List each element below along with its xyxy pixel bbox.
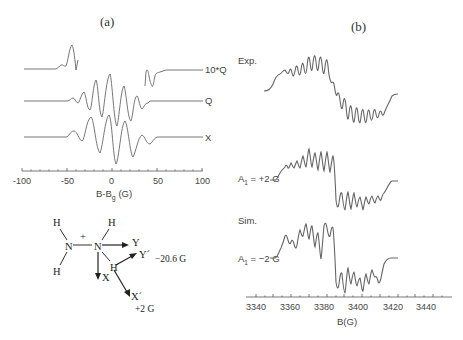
tick-b-4: 3420 [383,302,403,312]
coupling-x-prime: +2 G [135,304,154,314]
panel-b-label: (b) [351,19,366,34]
atom-n2: N [94,241,102,252]
atom-h3: H [108,217,116,228]
atom-h2: H [53,266,61,277]
tick-a-1: -50 [61,176,74,186]
tick-a-4: 100 [195,176,210,186]
axis-y-label: Y [132,237,140,248]
trace-label-q: Q [205,95,212,106]
atom-h1: H [53,217,61,228]
x-axis-b [246,294,452,297]
arrow-y-icon [122,242,129,248]
x-axis-title-a: B-Bg (G) [96,188,132,202]
x-axis-title-b: B(G) [337,316,357,327]
tick-b-1: 3360 [280,302,300,312]
atom-n1: N [65,241,73,252]
label-a1-minus: A1 = −2 G [238,253,280,266]
trace-label-10xq: 10*Q [205,64,227,75]
tick-b-5: 3440 [416,302,436,312]
x-axis-a [22,168,203,171]
trace-label-x: X [205,132,212,143]
tick-a-3: 50 [153,176,163,186]
trace-10xq [24,45,203,87]
trace-sim-minus [270,223,398,293]
panel-a-label: (a) [100,14,114,29]
trace-sim-plus [270,149,398,210]
arrow-x-prime-icon [124,289,130,297]
trace-exp [264,56,398,123]
figure: (a) 10*Q Q X -100 -50 0 50 100 [0,0,463,340]
tick-b-3: 3400 [348,302,368,312]
label-a1-plus: A1 = +2 G [238,173,280,186]
trace-x [24,115,203,164]
molecule-diagram: N H H + N H Y X H Y´ −20.6 G X´ +2 G [53,217,186,314]
arrow-x-icon [95,273,101,280]
tick-a-0: -100 [13,176,31,186]
axis-y-prime-label: Y´ [139,249,150,260]
arrow-y-prime-icon [129,253,137,259]
atom-h4: H [110,262,118,273]
tick-b-0: 3340 [246,302,266,312]
label-exp: Exp. [238,55,257,66]
charge-plus: + [80,231,86,242]
label-sim: Sim. [238,215,257,226]
axis-x-label: X [102,272,110,283]
axis-x-prime-label: X´ [131,291,142,302]
coupling-y-prime: −20.6 G [155,254,186,264]
tick-b-2: 3380 [314,302,334,312]
tick-a-2: 0 [109,176,114,186]
trace-q [24,74,203,126]
